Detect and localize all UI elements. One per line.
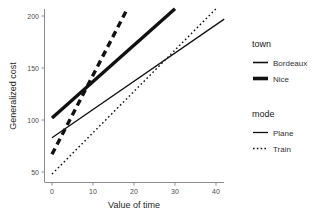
legend-label-train: Train [273,145,291,154]
y-tick-label: 200 [27,13,39,20]
y-tick-label: 50 [31,169,39,176]
legend-label-bordeaux: Bordeaux [273,59,307,68]
legend-mode-title: mode [252,109,275,119]
legend-label-plane: Plane [273,129,294,138]
legend-label-nice: Nice [273,75,290,84]
x-tick-label: 40 [212,188,220,195]
x-tick-label: 30 [171,188,179,195]
x-tick-label: 20 [130,188,138,195]
y-axis-title: Generalized cost [8,62,18,130]
x-tick-label: 10 [89,188,97,195]
y-tick-label: 100 [27,117,39,124]
legend-town-title: town [252,39,271,49]
x-tick-label: 0 [50,188,54,195]
chart-canvas: 200 150 100 50 0 10 20 30 40 Value of ti… [0,0,320,215]
chart-figure: 200 150 100 50 0 10 20 30 40 Value of ti… [0,0,320,215]
x-axis-title: Value of time [108,200,160,210]
y-tick-label: 150 [27,65,39,72]
